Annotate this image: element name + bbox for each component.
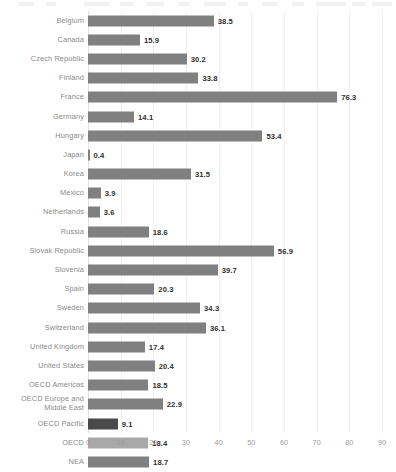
bar-row: OECD Americas18.5	[0, 376, 396, 395]
category-label: Czech Republic	[0, 55, 84, 64]
bar-value-label: 18.5	[152, 381, 167, 390]
category-label: NEA	[0, 458, 84, 467]
bar-track: 76.3	[88, 88, 396, 107]
category-label: Finland	[0, 74, 84, 83]
x-axis: 0102030405060708090	[0, 435, 396, 455]
bar-row: Korea31.5	[0, 165, 396, 184]
category-label: Netherlands	[0, 208, 84, 217]
bar-value-label: 9.1	[122, 419, 133, 428]
bar-value-label: 38.5	[218, 16, 233, 25]
bar-value-label: 33.8	[202, 74, 217, 83]
bar-track: 34.3	[88, 299, 396, 318]
bar	[88, 341, 145, 352]
bar	[88, 111, 134, 122]
bar	[88, 226, 149, 237]
bar-value-label: 22.9	[167, 400, 182, 409]
category-label: OECD Europe and Middle East	[0, 396, 84, 413]
x-tick-label: 20	[149, 438, 157, 447]
bar-row: Belgium38.5	[0, 11, 396, 30]
bar-row: OECD Europe and Middle East22.9	[0, 395, 396, 414]
x-tick-label: 40	[215, 438, 223, 447]
category-label: OECD Pacific	[0, 419, 84, 428]
bar-value-label: 3.9	[105, 189, 116, 198]
bar-value-label: 56.9	[278, 246, 293, 255]
bar	[88, 380, 148, 391]
x-tick-label: 80	[345, 438, 353, 447]
bar-row: Czech Republic30.2	[0, 49, 396, 68]
bar-row: OECD Pacific9.1	[0, 414, 396, 433]
bar	[88, 322, 206, 333]
bar-value-label: 39.7	[222, 266, 237, 275]
bar	[88, 34, 140, 45]
bar	[88, 303, 200, 314]
bar	[88, 15, 214, 26]
bar-rows: Belgium38.5Canada15.9Czech Republic30.2F…	[0, 11, 396, 472]
category-label: Slovenia	[0, 266, 84, 275]
bar-value-label: 0.4	[94, 150, 105, 159]
category-label: Sweden	[0, 304, 84, 313]
bar-row: United States20.4	[0, 356, 396, 375]
bar-value-label: 14.1	[138, 112, 153, 121]
bar-row: Russia18.6	[0, 222, 396, 241]
bar-value-label: 53.4	[266, 131, 281, 140]
bar-track: 39.7	[88, 260, 396, 279]
bar-track: 20.4	[88, 356, 396, 375]
bar-row: Finland33.8	[0, 69, 396, 88]
bar-track: 30.2	[88, 49, 396, 68]
bar	[88, 418, 118, 429]
bar-row: Mexico3.9	[0, 184, 396, 203]
bar-track: 17.4	[88, 337, 396, 356]
bar-track: 53.4	[88, 126, 396, 145]
x-tick-label: 0	[86, 438, 90, 447]
bar-row: Sweden34.3	[0, 299, 396, 318]
bar	[88, 92, 337, 103]
bar-value-label: 31.5	[195, 170, 210, 179]
category-label: Spain	[0, 285, 84, 294]
bar-row: Germany14.1	[0, 107, 396, 126]
category-label: United States	[0, 362, 84, 371]
bar-value-label: 3.6	[104, 208, 115, 217]
bar	[88, 360, 155, 371]
bar-row: Slovak Republic56.9	[0, 241, 396, 260]
bar	[88, 169, 191, 180]
bar-value-label: 15.9	[144, 35, 159, 44]
bar	[88, 265, 218, 276]
bar	[88, 73, 198, 84]
category-label: Belgium	[0, 16, 84, 25]
category-label: OECD Americas	[0, 381, 84, 390]
bar-row: United Kingdom17.4	[0, 337, 396, 356]
category-label: Japan	[0, 151, 84, 160]
category-label: Slovak Republic	[0, 247, 84, 256]
bar-row: Netherlands3.6	[0, 203, 396, 222]
bar-row: Slovenia39.7	[0, 260, 396, 279]
category-label: Korea	[0, 170, 84, 179]
bar	[88, 284, 154, 295]
bar-value-label: 30.2	[191, 54, 206, 63]
bar	[88, 399, 163, 410]
bar-row: Canada15.9	[0, 30, 396, 49]
bar	[88, 130, 262, 141]
bar-track: 3.6	[88, 203, 396, 222]
bar-value-label: 20.3	[158, 285, 173, 294]
bar-value-label: 17.4	[149, 342, 164, 351]
bar-value-label: 20.4	[159, 361, 174, 370]
bar-track: 20.3	[88, 280, 396, 299]
bar-value-label: 76.3	[341, 93, 356, 102]
bar-track: 18.7	[88, 452, 396, 471]
bar-track: 3.9	[88, 184, 396, 203]
bar-track: 18.6	[88, 222, 396, 241]
x-tick-label: 10	[117, 438, 125, 447]
category-label: Switzerland	[0, 323, 84, 332]
bar-track: 9.1	[88, 414, 396, 433]
bar-value-label: 36.1	[210, 323, 225, 332]
bar-track: 14.1	[88, 107, 396, 126]
x-tick-label: 50	[247, 438, 255, 447]
category-label: Canada	[0, 35, 84, 44]
bar-track: 56.9	[88, 241, 396, 260]
plot-area: Belgium38.5Canada15.9Czech Republic30.2F…	[0, 11, 396, 464]
x-tick-label: 70	[313, 438, 321, 447]
bar-row: France76.3	[0, 88, 396, 107]
cropped-header-artifact	[0, 0, 396, 9]
category-label: France	[0, 93, 84, 102]
